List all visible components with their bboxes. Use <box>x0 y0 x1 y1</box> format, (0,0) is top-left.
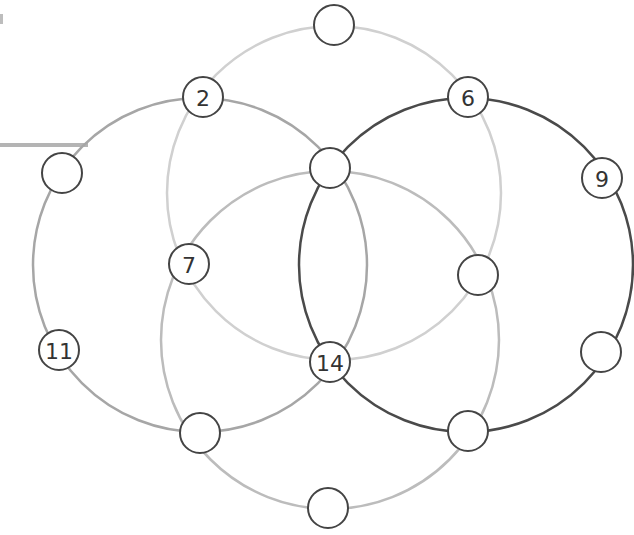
node-label: 11 <box>45 339 73 364</box>
node-circle <box>308 488 348 528</box>
node-circle <box>180 413 220 453</box>
node-label: 14 <box>316 351 344 376</box>
empty-node-slot[interactable] <box>42 153 82 193</box>
node-label: 7 <box>182 253 196 278</box>
node-14: 14 <box>310 342 350 382</box>
empty-node-slot[interactable] <box>308 488 348 528</box>
node-circle <box>581 332 621 372</box>
circle-top <box>167 26 501 360</box>
node-label: 2 <box>196 86 210 111</box>
node-7: 7 <box>169 244 209 284</box>
node-layer: 26971114 <box>39 5 622 528</box>
node-circle <box>448 411 488 451</box>
empty-node-slot[interactable] <box>310 148 350 188</box>
node-circle <box>458 255 498 295</box>
empty-node-slot[interactable] <box>448 411 488 451</box>
empty-node-slot[interactable] <box>458 255 498 295</box>
node-circle <box>310 148 350 188</box>
node-9: 9 <box>582 158 622 198</box>
node-label: 6 <box>461 86 475 111</box>
circle-bottom <box>161 171 499 509</box>
circle-puzzle-diagram: 26971114 <box>0 0 634 535</box>
circle-layer <box>33 26 633 509</box>
node-2: 2 <box>183 77 223 117</box>
node-11: 11 <box>39 330 79 370</box>
empty-node-slot[interactable] <box>314 5 354 45</box>
node-circle <box>314 5 354 45</box>
empty-node-slot[interactable] <box>581 332 621 372</box>
empty-node-slot[interactable] <box>180 413 220 453</box>
node-circle <box>42 153 82 193</box>
node-6: 6 <box>448 77 488 117</box>
node-label: 9 <box>595 167 609 192</box>
